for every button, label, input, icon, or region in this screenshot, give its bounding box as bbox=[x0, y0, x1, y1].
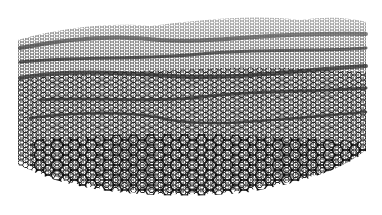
graphene-lattice-illustration bbox=[0, 0, 382, 215]
graphene-image bbox=[0, 0, 382, 215]
